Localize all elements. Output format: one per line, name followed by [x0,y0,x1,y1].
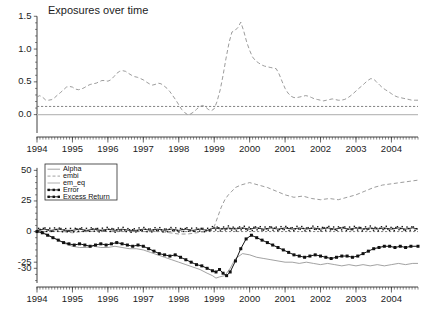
error-marker [317,226,318,227]
excess-return-marker [346,255,349,258]
excess-return-marker [195,263,198,266]
error-marker [196,227,197,228]
excess-return-marker [41,231,44,234]
excess-return-marker [404,246,407,249]
error-marker [336,230,337,231]
legend-marker [53,189,55,191]
excess-return-marker [115,241,118,244]
error-marker [95,228,96,229]
error-marker [285,226,286,227]
error-marker [338,226,339,227]
error-marker [244,226,245,227]
error-marker [118,227,119,228]
error-marker [279,229,280,230]
error-marker [218,227,219,228]
error-marker [226,228,227,229]
top-x-tick-label: 1996 [97,143,118,154]
excess-return-marker [78,242,81,245]
error-marker [94,230,95,231]
error-marker [225,229,226,230]
error-marker [328,226,329,227]
error-marker [54,227,55,228]
error-marker [253,227,254,228]
error-marker [248,227,249,228]
legend-marker [58,189,60,191]
error-marker [164,228,165,229]
error-marker [322,227,323,228]
error-marker [142,230,143,231]
error-marker [358,227,359,228]
bottom-x-tick-label: 1998 [168,293,189,304]
error-marker [371,228,372,229]
error-marker [252,230,253,231]
error-marker [173,230,174,231]
error-marker [189,230,190,231]
error-marker [242,228,243,229]
excess-return-marker [372,247,375,250]
error-marker [228,225,229,226]
error-marker [416,228,417,229]
error-marker [272,230,273,231]
top-y-tick-label: 0.5 [18,75,31,86]
error-marker [352,229,353,230]
legend-marker [48,196,50,198]
error-marker [229,228,230,229]
excess-return-marker [83,244,86,247]
error-marker [373,230,374,231]
excess-return-marker [362,252,365,255]
error-marker [57,230,58,231]
error-marker [245,229,246,230]
error-marker [106,227,107,228]
error-marker [386,226,387,227]
error-marker [395,227,396,228]
error-marker [121,229,122,230]
top-x-tick-label: 1994 [26,143,47,154]
error-marker [83,231,84,232]
error-marker [354,226,355,227]
top-x-tick-label: 1995 [62,143,83,154]
error-marker [153,229,154,230]
error-marker [43,228,44,229]
error-marker [363,228,364,229]
error-marker [138,227,139,228]
error-marker [258,228,259,229]
error-marker [151,231,152,232]
excess-return-marker [287,251,290,254]
error-marker [180,228,181,229]
top-x-tick-label: 2003 [345,143,366,154]
excess-return-marker [121,242,124,245]
excess-return-marker [168,255,171,258]
error-marker [127,228,128,229]
excess-return-marker [225,274,228,277]
error-marker [223,226,224,227]
error-marker [343,227,344,228]
error-marker [268,229,269,230]
excess-return-marker [190,261,193,264]
excess-return-marker [319,255,322,258]
error-marker [100,230,101,231]
excess-return-marker [314,253,317,256]
excess-return-marker [73,244,76,247]
top-y-tick-label: 1.5 [18,10,31,21]
error-marker [210,229,211,230]
error-marker [362,230,363,231]
error-marker [143,227,144,228]
error-marker [217,226,218,227]
error-marker [161,229,162,230]
bottom-x-tick-label: 1995 [62,293,83,304]
legend[interactable]: Alphaembiem_eqErrorExcess Return [45,164,117,201]
excess-return-marker [57,239,60,242]
error-marker [87,230,88,231]
excess-return-marker [383,245,386,248]
excess-return-marker [179,256,182,259]
excess-return-marker [261,239,264,242]
error-marker [330,229,331,230]
error-marker [295,228,296,229]
error-marker [52,231,53,232]
error-marker [303,228,304,229]
excess-return-marker [239,247,242,250]
legend-marker [58,196,60,198]
error-marker [405,230,406,231]
excess-return-marker [234,259,237,262]
error-marker [201,228,202,229]
